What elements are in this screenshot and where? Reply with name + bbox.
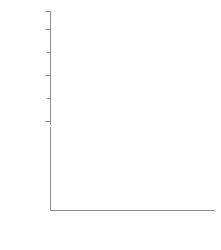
y-axis-line-bottom (50, 127, 51, 210)
x-axis-line (50, 210, 215, 211)
angle-series-line (0, 0, 221, 250)
dichotomy-figure (0, 0, 221, 250)
